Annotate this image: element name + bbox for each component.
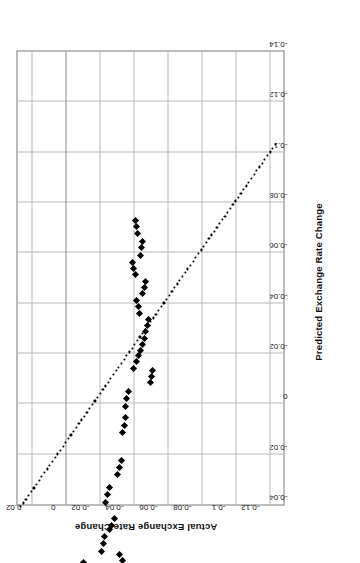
data-point xyxy=(138,244,145,251)
reference-line-dot xyxy=(133,343,135,345)
reference-line-dot xyxy=(32,486,34,488)
reference-line-dot xyxy=(22,502,24,504)
reference-line-dot xyxy=(75,426,77,428)
reference-line-dot xyxy=(245,184,247,186)
reference-line-dot xyxy=(136,339,138,341)
data-point xyxy=(115,463,122,470)
reference-line-dot xyxy=(242,188,244,190)
x-tick-label: -0.04 xyxy=(269,492,287,501)
rotation-wrapper: -0.04-0.020-0.02-0.04-0.06-0.08-0.1-0.12… xyxy=(0,0,360,563)
data-point xyxy=(130,365,137,372)
reference-line-dot xyxy=(107,381,109,383)
x-tick-label: -0.04 xyxy=(269,291,287,300)
reference-line-dot xyxy=(229,207,231,209)
reference-line-dot xyxy=(40,475,42,477)
y-gridline xyxy=(201,51,202,504)
data-point xyxy=(125,387,132,394)
figure-canvas: -0.04-0.020-0.02-0.04-0.06-0.08-0.1-0.12… xyxy=(0,0,360,563)
reference-line-dot xyxy=(122,358,124,360)
reference-line-dot xyxy=(263,158,265,160)
reference-line-dot xyxy=(210,234,212,236)
reference-line-dot xyxy=(128,351,130,353)
data-point xyxy=(120,422,127,429)
reference-line-dot xyxy=(255,169,257,171)
reference-line-dot xyxy=(218,222,220,224)
reference-line-dot xyxy=(101,388,103,390)
reference-line-dot xyxy=(46,468,48,470)
reference-line-dot xyxy=(64,441,66,443)
y-gridline xyxy=(133,51,134,504)
data-point xyxy=(101,533,108,540)
x-tick-label: -0.14 xyxy=(269,39,287,48)
x-tick-label: -0.02 xyxy=(269,442,287,451)
reference-line-dot xyxy=(154,313,156,315)
reference-line-dot xyxy=(59,449,61,451)
reference-line-dot xyxy=(130,347,132,349)
y-gridline xyxy=(31,51,32,504)
reference-line-dot xyxy=(226,211,228,213)
reference-line-dot xyxy=(231,203,233,205)
data-point xyxy=(117,457,124,464)
y-tick-label: -0.02 xyxy=(71,502,89,511)
reference-line-dot xyxy=(205,241,207,243)
reference-line-dot xyxy=(271,147,273,149)
reference-line-dot xyxy=(27,494,29,496)
y-axis-title: Actual Exchange Rate Change xyxy=(26,522,266,533)
x-tick-label: -0.08 xyxy=(269,190,287,199)
x-axis-title: Predicted Exchange Rate Change xyxy=(312,0,323,563)
reference-line-dot xyxy=(24,498,26,500)
data-point xyxy=(123,395,130,402)
reference-line-dot xyxy=(199,249,201,251)
reference-line-dot xyxy=(252,173,254,175)
data-point xyxy=(114,471,121,478)
reference-line-dot xyxy=(189,264,191,266)
x-gridline xyxy=(17,402,283,403)
reference-line-dot xyxy=(125,354,127,356)
reference-line-dot xyxy=(266,154,268,156)
reference-line-dot xyxy=(213,230,215,232)
reference-line-dot xyxy=(181,275,183,277)
y-gridline xyxy=(99,51,100,504)
reference-line-dot xyxy=(30,490,32,492)
reference-line-dot xyxy=(85,411,87,413)
x-gridline xyxy=(17,251,283,252)
y-tick-label: 0.02 xyxy=(5,502,21,511)
reference-line-dot xyxy=(186,267,188,269)
reference-line-dot xyxy=(104,385,106,387)
reference-line-dot xyxy=(157,309,159,311)
reference-line-dot xyxy=(168,294,170,296)
reference-line-dot xyxy=(109,377,111,379)
reference-line-dot xyxy=(112,373,114,375)
reference-line-dot xyxy=(51,460,53,462)
reference-line-dot xyxy=(268,150,270,152)
reference-line-dot xyxy=(221,218,223,220)
reference-line-dot xyxy=(152,317,154,319)
reference-line-dot xyxy=(234,200,236,202)
reference-line-dot xyxy=(43,471,45,473)
reference-line-dot xyxy=(91,403,93,405)
data-point xyxy=(99,540,106,547)
reference-line-dot xyxy=(173,286,175,288)
reference-line-dot xyxy=(53,456,55,458)
data-point xyxy=(136,310,143,317)
reference-line-dot xyxy=(239,192,241,194)
reference-line-dot xyxy=(117,366,119,368)
reference-line-dot xyxy=(194,256,196,258)
data-point xyxy=(134,230,141,237)
x-gridline xyxy=(17,100,283,101)
reference-line-dot xyxy=(93,400,95,402)
reference-line-dot xyxy=(35,483,37,485)
reference-line-dot xyxy=(61,445,63,447)
reference-line-dot xyxy=(215,226,217,228)
data-point xyxy=(103,491,110,498)
reference-line-dot xyxy=(96,396,98,398)
reference-line-dot xyxy=(250,177,252,179)
x-gridline xyxy=(17,151,283,152)
y-tick-label: -0.12 xyxy=(241,502,259,511)
reference-line-dot xyxy=(80,418,82,420)
reference-line-dot xyxy=(237,196,239,198)
reference-line-dot xyxy=(88,407,90,409)
reference-line-dot xyxy=(176,283,178,285)
reference-line-dot xyxy=(69,434,71,436)
x-tick-label: -0.12 xyxy=(269,89,287,98)
